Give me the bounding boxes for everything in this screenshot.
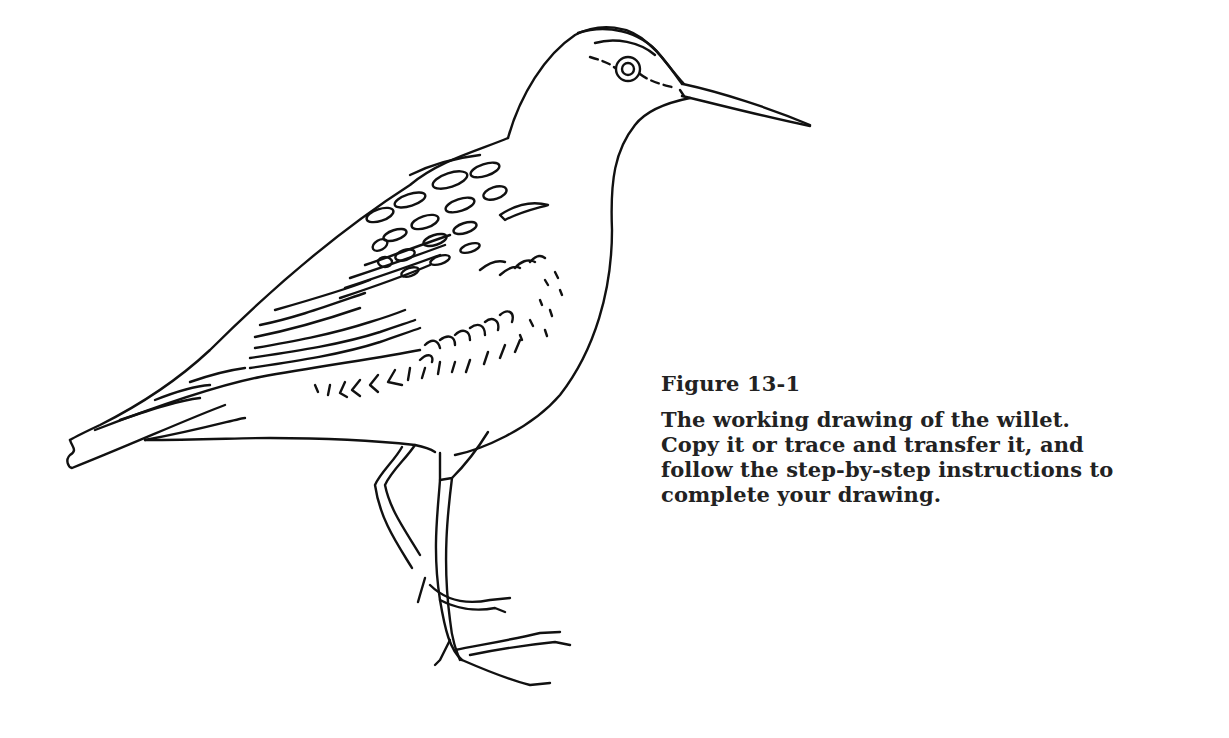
spot-top: [410, 155, 480, 175]
caption-line: Copy it or trace and transfer it, and: [661, 432, 1221, 457]
wing-feather-3: [190, 368, 245, 382]
spot: [394, 247, 416, 263]
spot: [444, 195, 476, 216]
back-line: [70, 138, 508, 440]
wing-outline: [95, 350, 420, 430]
foot-lower-hind: [435, 640, 450, 665]
foot-lower-toes: [455, 632, 570, 685]
wing-feather-10: [340, 265, 430, 298]
spot: [371, 237, 390, 254]
willet-illustration-icon: [0, 0, 1229, 738]
flank-chevron: [315, 362, 440, 397]
right-leg-front: [436, 453, 462, 660]
caption-line: complete your drawing.: [661, 482, 1221, 507]
belly-line: [145, 438, 435, 452]
wing-feather-4: [250, 328, 420, 368]
throat: [455, 98, 690, 455]
breast-mark: [480, 256, 545, 275]
scapular-plume: [500, 203, 548, 220]
spot: [365, 205, 395, 225]
spot: [459, 241, 480, 255]
spot: [482, 184, 509, 203]
figure-caption: Figure 13-1 The working drawing of the w…: [661, 371, 1221, 507]
spot: [429, 253, 450, 267]
caption-body: The working drawing of the willet. Copy …: [661, 407, 1221, 507]
eye-outer: [616, 57, 640, 81]
caption-line: The working drawing of the willet.: [661, 407, 1221, 432]
spot: [469, 160, 501, 181]
caption-line: follow the step-by-step instructions to: [661, 457, 1221, 482]
eye-inner: [622, 63, 634, 75]
bill-mid: [680, 90, 684, 96]
right-leg-join: [440, 432, 488, 480]
figure-label: Figure 13-1: [661, 371, 1221, 397]
spot: [452, 220, 478, 237]
tail-tip: [67, 405, 225, 468]
spot: [410, 212, 440, 232]
breast-mark: [420, 340, 520, 372]
bill-upper: [683, 84, 810, 125]
foot-upper-hind: [418, 578, 425, 602]
willet-drawing-figure: [0, 0, 1229, 738]
breast-mark: [425, 311, 513, 348]
breast-dash: [520, 272, 562, 340]
spot: [431, 168, 470, 192]
tail-under: [145, 418, 245, 440]
right-leg-back: [446, 478, 460, 660]
